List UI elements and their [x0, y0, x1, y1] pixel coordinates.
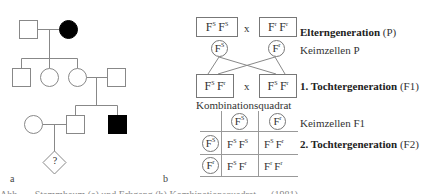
allele-sup: S	[270, 138, 273, 144]
label-suffix: (P)	[380, 26, 396, 38]
f1-genotype-left: FS Fr	[196, 74, 234, 98]
male-symbol	[20, 21, 38, 39]
allele-sup: S	[225, 21, 228, 27]
figure-caption: Abb. — Stammbaum (a) und Erbgang (b) Kom…	[0, 189, 423, 194]
male-symbol	[67, 116, 85, 134]
allele-sup: r	[275, 21, 277, 27]
label-gametes-p: Keimzellen P	[300, 44, 360, 56]
label-bold: Elterngeneration	[300, 26, 380, 38]
allele-sup: r	[286, 21, 288, 27]
allele-sup: S	[245, 138, 248, 144]
punnett-cell: FS Fr	[227, 160, 247, 172]
gamete-p-left: FS	[211, 40, 228, 57]
label-bold: 2. Tochtergeneration	[300, 138, 397, 150]
allele-base: F	[217, 79, 224, 93]
allele-sup: r	[213, 159, 215, 165]
allele-sup: r	[279, 42, 281, 48]
allele-sup: r	[270, 160, 272, 166]
label-parent-generation: Elterngeneration (P)	[300, 26, 396, 38]
allele-sup: S	[211, 80, 214, 86]
affected-male-symbol	[109, 116, 127, 134]
punnett-cell: Fr Fr	[264, 160, 282, 172]
panel-b-letter: b	[163, 173, 168, 184]
allele-sup: r	[280, 160, 282, 166]
allele-sup: S	[221, 42, 224, 48]
punnett-title: Kombinationsquadrat	[196, 99, 291, 111]
punnett-cell: FS FS	[227, 138, 248, 150]
allele-sup: r	[224, 80, 226, 86]
cross-symbol: x	[244, 80, 250, 92]
allele-sup: S	[233, 138, 236, 144]
label-bold: 1. Tochtergeneration	[300, 80, 397, 92]
female-symbol	[41, 69, 59, 87]
unknown-symbol-label: ?	[50, 155, 60, 166]
allele-base: F	[280, 79, 287, 93]
punnett-row-header: FS	[202, 135, 219, 152]
allele-sup: r	[287, 80, 289, 86]
f1-genotype-right: FS Fr	[259, 74, 297, 98]
allele-sup: S	[212, 137, 215, 143]
allele-sup: S	[212, 21, 215, 27]
punnett-col-header: FS	[231, 113, 248, 130]
allele-sup: r	[280, 115, 282, 121]
panel-a-letter: a	[10, 173, 14, 184]
allele-sup: S	[241, 115, 244, 121]
male-symbol	[108, 69, 126, 87]
parent-genotype-right: Fr Fr	[259, 17, 297, 37]
label-suffix: (F1)	[397, 80, 419, 92]
female-symbol	[25, 116, 43, 134]
label-f1-generation: 1. Tochtergeneration (F1)	[300, 80, 419, 92]
affected-female-symbol	[60, 21, 78, 39]
allele-base: F	[268, 20, 275, 34]
allele-sup: S	[233, 160, 236, 166]
gamete-p-right: Fr	[268, 40, 285, 57]
allele-sup: r	[282, 138, 284, 144]
punnett-row-header: Fr	[202, 157, 219, 174]
label-gametes-f1: Keimzellen F1	[300, 117, 365, 129]
label-suffix: (F2)	[397, 138, 419, 150]
allele-base: F	[279, 20, 286, 34]
male-symbol	[13, 69, 31, 87]
parent-genotype-left: FS FS	[196, 17, 238, 37]
allele-sup: r	[245, 160, 247, 166]
label-f2-generation: 2. Tochtergeneration (F2)	[300, 138, 419, 150]
punnett-col-header: Fr	[269, 113, 286, 130]
cross-symbol: x	[244, 22, 250, 34]
punnett-cell: FS Fr	[264, 138, 284, 150]
female-symbol	[69, 69, 87, 87]
allele-sup: S	[274, 80, 277, 86]
allele-base: F	[218, 20, 225, 34]
